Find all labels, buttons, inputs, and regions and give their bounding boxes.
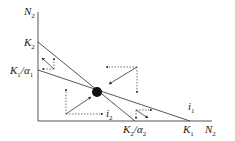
k1-intercept-label: K1 — [183, 124, 194, 138]
equilibrium-point — [92, 87, 102, 97]
isocline-2-line — [38, 42, 135, 121]
isocline-1-line — [38, 70, 190, 121]
vector-field-top-right — [106, 67, 137, 93]
vector-field-bottom-right — [136, 110, 152, 119]
isocline-1-label: i1 — [188, 101, 195, 115]
k2-intercept-label: K2 — [24, 37, 35, 51]
y-axis-label: N2 — [24, 6, 35, 20]
isocline-diagram: N2 N2 K2 K1/α1 K2/α2 K1 i1 i2 — [0, 0, 235, 141]
x-axis-label: N2 — [205, 124, 216, 138]
diagram-graphics — [0, 0, 235, 141]
k2-over-alpha2-label: K2/α2 — [123, 124, 146, 138]
isocline-2-label: i2 — [106, 108, 113, 122]
k1-over-alpha1-label: K1/α1 — [10, 65, 33, 79]
vector-field-top-left — [42, 58, 54, 69]
